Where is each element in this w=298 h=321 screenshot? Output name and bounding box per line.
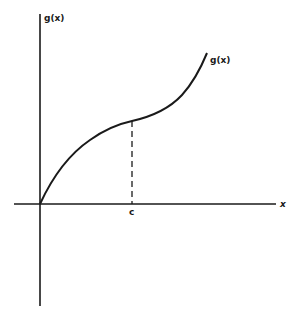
y-axis-label: g(x) (44, 13, 64, 23)
curve-label: g(x) (210, 55, 230, 65)
curve-g-of-x (40, 53, 207, 204)
point-c-label: c (129, 207, 134, 217)
x-axis-label: x (279, 199, 287, 209)
function-graph: g(x) g(x) c x (0, 0, 298, 321)
